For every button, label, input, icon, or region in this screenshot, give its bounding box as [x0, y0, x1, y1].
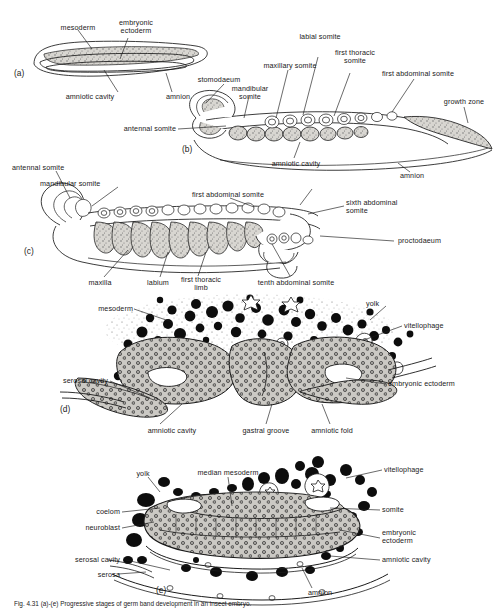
label-b-mandibular-somite: mandibular somite — [232, 85, 269, 102]
panel-c-artwork — [41, 183, 320, 278]
label-c-first-thoracic-limb: first thoracic limb — [181, 276, 221, 293]
label-d-yolk: yolk — [366, 300, 379, 308]
label-e-somite: somite — [382, 506, 404, 514]
label-b-first-abdominal-somite: first abdominal somite — [382, 70, 454, 78]
label-e-amnion: amnion — [308, 589, 332, 597]
label-b-first-thoracic-somite: first thoracic somite — [335, 49, 375, 66]
panel-a-artwork — [34, 41, 207, 76]
label-e-coelom: coelom — [96, 508, 120, 516]
panel-id-e: (e) — [156, 585, 166, 595]
figure-caption: Fig. 4.31 (a)-(e) Progressive stages of … — [14, 600, 501, 612]
label-e-serosal-cavity: serosal cavity — [75, 556, 120, 564]
label-c-maxilla: maxilla — [88, 279, 111, 287]
label-d-amniotic-fold: amniotic fold — [311, 427, 353, 435]
label-c-proctodaeum: proctodaeum — [398, 237, 441, 245]
label-e-vitellophage: vitellophage — [384, 466, 424, 474]
label-c-antennal-somite: antennal somite — [12, 164, 64, 172]
label-d-serosal-cavity: serosal cavity — [63, 377, 108, 385]
panel-e-artwork — [108, 456, 390, 605]
label-d-amniotic-cavity: amniotic cavity — [148, 427, 197, 435]
label-e-embryonic-ectoderm: embryonic ectoderm — [382, 529, 416, 546]
panel-id-b: (b) — [182, 144, 192, 154]
label-d-mesoderm: mesoderm — [98, 305, 133, 313]
label-d-gastral-groove: gastral groove — [243, 427, 290, 435]
label-b-amniotic-cavity: amniotic cavity — [272, 160, 321, 168]
panel-id-c: (c) — [24, 246, 34, 256]
label-e-serosa: serosa — [98, 571, 120, 579]
panel-id-d: (d) — [60, 404, 70, 414]
label-e-yolk: yolk — [136, 470, 149, 478]
label-e-median-mesoderm: median mesoderm — [197, 469, 258, 477]
label-b-growth-zone: growth zone — [444, 98, 484, 106]
label-e-neuroblast: neuroblast — [85, 524, 120, 532]
panel-id-a: (a) — [14, 68, 24, 78]
label-d-embryonic-ectoderm: embryonic ectoderm — [388, 380, 455, 388]
figure-embryo-development: mesoderm embryonic ectoderm amniotic cav… — [0, 0, 501, 612]
label-c-mandibular-somite: mandibular somite — [40, 180, 100, 188]
label-c-first-abdominal-somite: first abdominal somite — [192, 191, 264, 199]
label-c-tenth-abdominal-somite: tenth abdominal somite — [258, 279, 335, 287]
label-a-embryonic-ectoderm: embryonic ectoderm — [119, 19, 153, 36]
label-c-labium: labium — [147, 279, 169, 287]
label-b-amnion: amnion — [400, 172, 424, 180]
label-c-sixth-abdominal-somite: sixth abdominal somite — [346, 199, 397, 216]
label-b-maxillary-somite: maxillary somite — [263, 62, 316, 70]
label-a-amniotic-cavity: amniotic cavity — [66, 93, 115, 101]
label-b-labial-somite: labial somite — [299, 33, 340, 41]
label-e-amniotic-cavity: amniotic cavity — [382, 556, 431, 564]
label-d-vitellophage: vitellophage — [404, 322, 444, 330]
label-a-mesoderm: mesoderm — [61, 24, 96, 32]
label-a-amnion: amnion — [166, 93, 190, 101]
label-b-antennal-somite: antennal somite — [124, 125, 176, 133]
